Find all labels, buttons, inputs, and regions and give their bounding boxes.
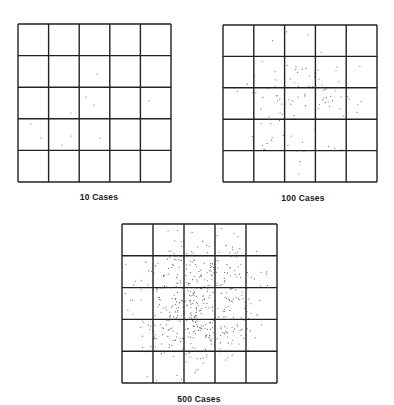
data-point — [213, 267, 214, 268]
scatter-grid-500-cases — [0, 0, 394, 405]
data-point — [176, 375, 177, 376]
data-point — [229, 300, 230, 301]
data-point — [228, 306, 229, 307]
data-point — [133, 284, 134, 285]
data-point — [168, 274, 169, 275]
data-point — [241, 295, 242, 296]
data-point — [185, 275, 186, 276]
data-point — [196, 296, 197, 297]
data-point — [210, 270, 211, 271]
data-point — [193, 331, 194, 332]
data-point — [224, 311, 225, 312]
data-point — [166, 324, 167, 325]
data-point — [266, 273, 267, 274]
data-point — [197, 247, 198, 248]
data-point — [233, 299, 234, 300]
data-point — [233, 233, 234, 234]
data-point — [159, 304, 160, 305]
data-point — [241, 335, 242, 336]
data-point — [224, 282, 225, 283]
data-point — [195, 264, 196, 265]
data-point — [191, 315, 192, 316]
data-point — [206, 354, 207, 355]
data-point — [208, 337, 209, 338]
data-point — [177, 230, 178, 231]
data-point — [194, 316, 195, 317]
data-point — [224, 278, 225, 279]
data-point — [216, 272, 217, 273]
data-point — [171, 267, 172, 268]
data-point — [176, 277, 177, 278]
data-point — [189, 333, 190, 334]
data-point — [236, 257, 237, 258]
data-point — [175, 259, 176, 260]
data-point — [200, 310, 201, 311]
data-point — [235, 253, 236, 254]
data-point — [178, 307, 179, 308]
data-point — [210, 329, 211, 330]
data-point — [195, 333, 196, 334]
data-point — [210, 340, 211, 341]
data-point — [191, 312, 192, 313]
data-point — [189, 317, 190, 318]
data-point — [207, 280, 208, 281]
data-point — [221, 328, 222, 329]
data-point — [238, 298, 239, 299]
data-point — [247, 328, 248, 329]
data-point — [181, 246, 182, 247]
data-point — [176, 301, 177, 302]
data-point — [191, 295, 192, 296]
data-point — [174, 258, 175, 259]
data-point — [219, 348, 220, 349]
data-point — [200, 270, 201, 271]
data-point — [189, 283, 190, 284]
data-point — [223, 311, 224, 312]
data-point — [157, 263, 158, 264]
data-point — [230, 267, 231, 268]
data-point — [197, 303, 198, 304]
data-point — [147, 284, 148, 285]
data-point — [190, 302, 191, 303]
data-point — [217, 308, 218, 309]
data-point — [250, 313, 251, 314]
data-point — [165, 307, 166, 308]
data-point — [164, 352, 165, 353]
data-point — [167, 259, 168, 260]
data-point — [266, 271, 267, 272]
data-point — [169, 329, 170, 330]
data-point — [194, 317, 195, 318]
data-point — [196, 315, 197, 316]
data-point — [127, 310, 128, 311]
data-point — [225, 245, 226, 246]
data-point — [171, 307, 172, 308]
data-point — [218, 316, 219, 317]
data-point — [176, 283, 177, 284]
data-point — [225, 359, 226, 360]
data-point — [191, 317, 192, 318]
data-point — [234, 329, 235, 330]
data-point — [186, 305, 187, 306]
data-point — [221, 284, 222, 285]
data-point — [206, 303, 207, 304]
data-point — [195, 321, 196, 322]
data-point — [186, 354, 187, 355]
data-point — [212, 310, 213, 311]
data-point — [161, 343, 162, 344]
data-point — [174, 240, 175, 241]
data-point — [227, 332, 228, 333]
data-point — [224, 297, 225, 298]
data-point — [188, 336, 189, 337]
data-point — [194, 295, 195, 296]
data-point — [240, 264, 241, 265]
data-point — [191, 343, 192, 344]
data-point — [220, 335, 221, 336]
data-point — [148, 270, 149, 271]
data-point — [155, 346, 156, 347]
data-point — [194, 292, 195, 293]
data-point — [192, 232, 193, 233]
data-point — [192, 303, 193, 304]
data-point — [209, 335, 210, 336]
data-point — [192, 261, 193, 262]
data-point — [173, 316, 174, 317]
data-point — [237, 251, 238, 252]
